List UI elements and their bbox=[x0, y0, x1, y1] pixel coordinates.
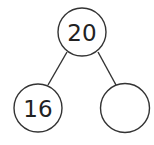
part-right-circle[interactable] bbox=[101, 84, 150, 133]
number-bond-diagram: 20 16 bbox=[0, 0, 154, 145]
whole-label: 20 bbox=[67, 20, 96, 46]
edge-whole-to-left bbox=[48, 52, 67, 85]
part-left-label: 16 bbox=[23, 96, 52, 122]
edge-whole-to-right bbox=[98, 52, 116, 85]
node-part-left: 16 bbox=[14, 84, 62, 132]
node-part-right[interactable] bbox=[101, 84, 150, 133]
node-whole: 20 bbox=[58, 8, 106, 56]
